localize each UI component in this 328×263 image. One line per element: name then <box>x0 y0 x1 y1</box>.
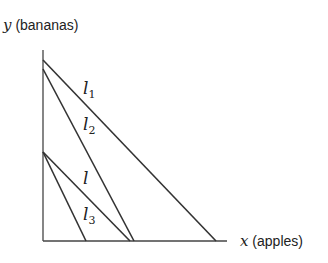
l-name: l <box>83 168 88 188</box>
line-l3 <box>43 152 86 241</box>
y-axis-label: y (bananas) <box>3 16 78 34</box>
l2-sub: 2 <box>88 124 95 137</box>
y-var: y <box>3 16 11 34</box>
label-l1: l1 <box>83 78 95 101</box>
x-unit: (apples) <box>252 233 303 249</box>
l1-sub: 1 <box>88 88 95 101</box>
budget-lines-diagram <box>0 0 328 263</box>
y-unit: (bananas) <box>15 17 78 33</box>
line-l1 <box>43 60 216 241</box>
label-l3: l3 <box>83 204 95 227</box>
x-axis-label: x (apples) <box>240 232 303 250</box>
x-var: x <box>240 232 248 250</box>
label-l2: l2 <box>83 114 95 137</box>
line-l <box>43 152 130 241</box>
label-l: l <box>83 168 88 188</box>
l3-sub: 3 <box>88 214 95 227</box>
